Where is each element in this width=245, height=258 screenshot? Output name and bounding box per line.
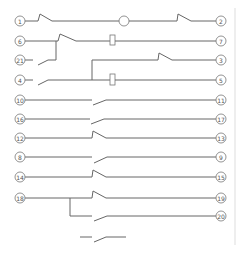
row-14-15 (25, 170, 216, 177)
terminal-label: 15 (217, 174, 225, 181)
terminal-label: 4 (18, 77, 22, 84)
terminal-label: 13 (217, 135, 225, 142)
terminal-label: 11 (217, 97, 225, 104)
terminal-label: 12 (16, 135, 24, 142)
row-4-5 (25, 74, 216, 85)
terminal-label: 2 (219, 18, 223, 25)
row-21-3 (25, 53, 216, 80)
wiring-diagram: 1 2 6 7 21 3 4 5 10 (0, 0, 245, 258)
terminal-label: 3 (219, 57, 223, 64)
lamp-icon (119, 16, 129, 26)
row-16-17 (25, 119, 216, 124)
row-10-11 (25, 100, 216, 105)
terminal-label: 1 (18, 18, 22, 25)
terminal-label: 17 (217, 116, 225, 123)
terminal-label: 16 (16, 116, 24, 123)
terminal-label: 19 (217, 195, 225, 202)
row-18-19-20 (25, 191, 216, 221)
terminal-label: 10 (16, 97, 24, 104)
row-1-2 (25, 14, 216, 26)
terminal-label: 7 (219, 38, 223, 45)
terminal-label: 14 (16, 174, 24, 181)
terminal-label: 20 (217, 213, 225, 220)
legend-no-contact-icon (80, 237, 126, 242)
row-12-13 (25, 131, 216, 138)
terminal-label: 18 (16, 195, 24, 202)
terminal-label: 6 (18, 38, 22, 45)
relay-coil-icon (110, 74, 115, 85)
row-6-7 (25, 34, 216, 60)
terminal-label: 5 (219, 77, 223, 84)
terminal-label: 9 (219, 154, 223, 161)
terminal-label: 21 (16, 57, 24, 64)
row-8-9 (25, 157, 216, 163)
relay-coil-icon (110, 35, 115, 45)
terminal-label: 8 (18, 154, 22, 161)
